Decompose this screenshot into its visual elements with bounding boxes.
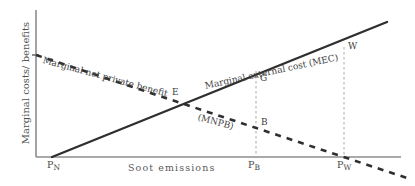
externality-diagram: Marginal costs/ benefits Soot emissions …	[0, 0, 415, 186]
mec-curve	[52, 22, 387, 157]
mnpb-curve	[36, 55, 407, 178]
chart-canvas	[0, 0, 415, 186]
